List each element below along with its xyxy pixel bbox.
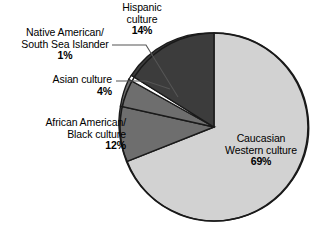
pie-label-caucasian-line1: Caucasian bbox=[214, 133, 308, 145]
pie-label-native-american: Native American/ South Sea Islander 1% bbox=[4, 27, 126, 62]
pie-label-african-american-line1: African American/ bbox=[10, 117, 126, 129]
pie-label-asian-line1: Asian culture bbox=[14, 74, 112, 86]
pie-label-african-american-value: 12% bbox=[10, 140, 126, 152]
pie-chart: Hispanic culture 14% Native American/ So… bbox=[0, 0, 313, 237]
pie-label-african-american: African American/ Black culture 12% bbox=[10, 117, 126, 152]
pie-label-hispanic-line1: Hispanic bbox=[104, 2, 180, 14]
pie-label-caucasian: Caucasian Western culture 69% bbox=[214, 133, 308, 168]
pie-label-caucasian-value: 69% bbox=[214, 156, 308, 168]
pie-label-native-american-value: 1% bbox=[4, 50, 126, 62]
pie-label-asian: Asian culture 4% bbox=[14, 74, 112, 97]
pie-label-asian-value: 4% bbox=[14, 86, 112, 98]
pie-label-native-american-line1: Native American/ bbox=[4, 27, 126, 39]
